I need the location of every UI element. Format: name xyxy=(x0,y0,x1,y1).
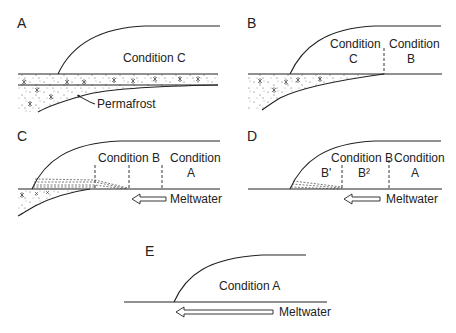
condition-b-label-line2: B xyxy=(407,52,415,66)
condition-a-label-line2: A xyxy=(187,166,195,180)
condition-c-label-line1: Condition xyxy=(330,37,381,51)
meltwater-arrow-icon xyxy=(176,307,273,317)
meltwater-arrow-icon xyxy=(344,194,380,204)
condition-b2-label: B² xyxy=(358,166,370,180)
permafrost-zone xyxy=(18,189,90,216)
condition-b1-label: B' xyxy=(321,166,331,180)
thaw-zone-line xyxy=(34,182,128,189)
condition-b-label-line1: Condition xyxy=(389,37,440,51)
condition-a-label-line1: Condition xyxy=(170,151,221,165)
condition-a-label-line2: A xyxy=(411,166,419,180)
condition-c-label: Condition C xyxy=(123,51,186,65)
glacier-profile xyxy=(290,141,441,189)
permafrost-pointer xyxy=(78,96,95,104)
permafrost-zone xyxy=(248,74,384,110)
condition-a-label-line1: Condition xyxy=(394,151,445,165)
panel-label-c: C xyxy=(17,128,27,144)
condition-b-label: Condition B xyxy=(98,151,160,165)
glacier-profile xyxy=(58,26,220,74)
condition-b-label: Condition B xyxy=(331,151,393,165)
panel-b: B Condition C Condition B xyxy=(247,15,442,110)
panel-e: E Condition A Meltwater xyxy=(124,243,331,319)
meltwater-arrow-icon xyxy=(132,194,166,204)
condition-a-label: Condition A xyxy=(219,279,280,293)
panel-a: A Condition C Permafrost xyxy=(17,15,220,112)
meltwater-label: Meltwater xyxy=(279,305,331,319)
panel-label-b: B xyxy=(247,15,256,31)
panel-label-e: E xyxy=(145,243,154,259)
panel-label-a: A xyxy=(17,15,27,31)
meltwater-label: Meltwater xyxy=(170,192,222,206)
panel-label-d: D xyxy=(247,128,257,144)
permafrost-label: Permafrost xyxy=(97,97,156,111)
condition-c-label-line2: C xyxy=(349,52,358,66)
meltwater-label: Meltwater xyxy=(386,192,438,206)
glacier-permafrost-diagram: A Condition C Permafrost B xyxy=(0,0,456,333)
panel-d: D Condition B Condition A B' B² Meltwate… xyxy=(247,128,445,206)
panel-c: C Condition B Condition A Meltwater xyxy=(17,128,222,216)
